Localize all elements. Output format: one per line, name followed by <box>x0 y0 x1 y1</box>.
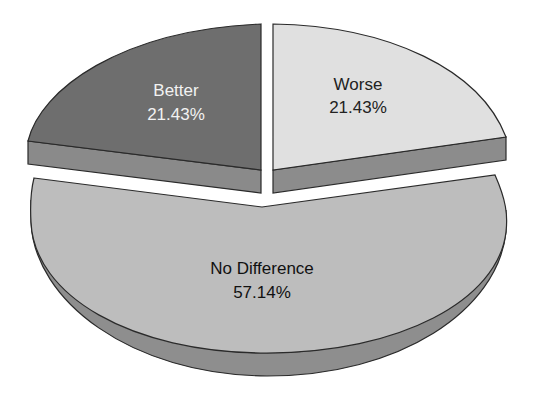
slice-better: Better 21.43% <box>28 24 261 193</box>
slice-worse: Worse 21.43% <box>273 24 506 193</box>
slice-better-value: 21.43% <box>147 105 205 124</box>
pie-chart: Better 21.43% Worse 21.43% No Difference… <box>0 0 534 409</box>
slice-worse-name: Worse <box>334 75 383 94</box>
slice-no-difference-value: 57.14% <box>233 283 291 302</box>
slice-no-difference-name: No Difference <box>210 259 314 278</box>
slice-worse-value: 21.43% <box>329 98 387 117</box>
slice-better-name: Better <box>153 81 199 100</box>
slice-no-difference: No Difference 57.14% <box>31 175 507 376</box>
